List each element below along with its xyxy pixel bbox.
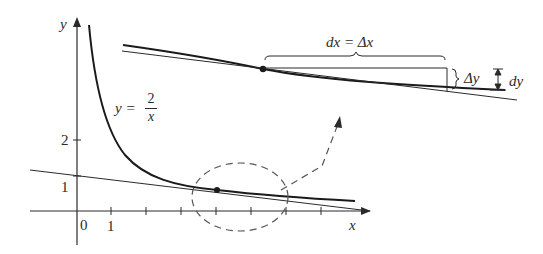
y-tick-label-1: 1	[61, 180, 69, 195]
tangent-line	[30, 170, 370, 211]
y-axis-arrow-icon	[73, 17, 81, 27]
axes	[30, 17, 371, 245]
delta-y-brace	[452, 69, 459, 89]
magnify-region-ellipse	[192, 163, 288, 231]
magnified-tangent	[122, 51, 517, 100]
y-tick-label-2: 2	[61, 133, 69, 148]
x-axis-label: x	[349, 218, 356, 233]
figure: y x 0 1 1 2 y = 2 x dx = Δx Δy dy	[0, 0, 543, 254]
y-axis-label: y	[60, 17, 67, 32]
magnify-dashed-arrow	[281, 124, 338, 190]
x-tick-label-1: 1	[107, 219, 115, 234]
dx-brace	[265, 52, 445, 60]
dy-label: dy	[509, 74, 523, 89]
magnify-arrow-head-icon	[334, 116, 342, 128]
magnified-view	[122, 45, 517, 100]
diagram-canvas	[0, 0, 543, 254]
fraction-denominator: x	[148, 110, 154, 125]
dy-measure	[490, 69, 506, 90]
tangent-point	[214, 187, 220, 193]
dx-label: dx = Δx	[326, 35, 373, 50]
magnified-point	[260, 66, 266, 72]
fraction-numerator: 2	[148, 92, 155, 107]
origin-label: 0	[80, 218, 88, 233]
delta-y-label: Δy	[464, 71, 479, 86]
function-label-lhs: y =	[115, 101, 136, 116]
function-label-fraction: 2 x	[145, 92, 157, 124]
